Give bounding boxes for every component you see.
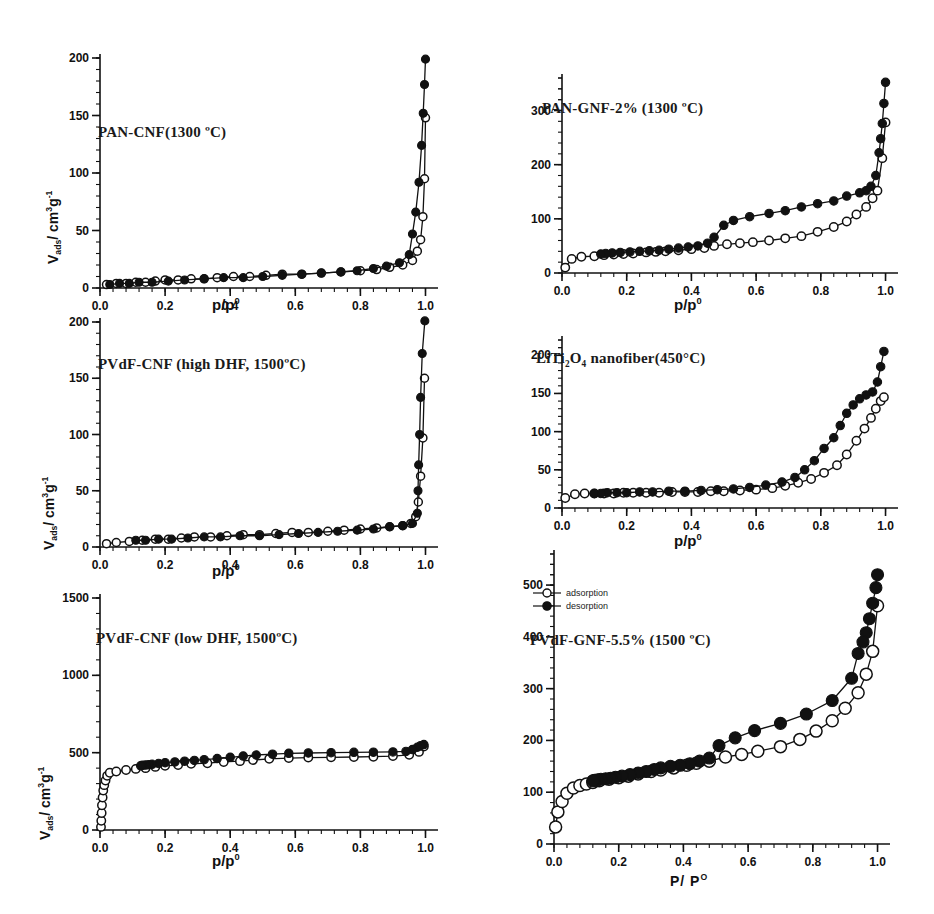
svg-text:0.6: 0.6	[287, 841, 304, 855]
svg-text:150: 150	[69, 371, 89, 385]
y-axis-label: Vads/ cm3g-1	[36, 767, 55, 840]
svg-text:200: 200	[69, 315, 89, 329]
svg-text:0.0: 0.0	[92, 558, 109, 572]
svg-text:100: 100	[531, 212, 551, 226]
svg-text:0.4: 0.4	[675, 855, 692, 869]
svg-text:0.2: 0.2	[618, 284, 635, 298]
legend-marker-open-circle	[532, 587, 562, 599]
svg-text:500: 500	[69, 746, 89, 760]
panel-title: PAN-GNF-2% (1300 ºC)	[542, 100, 703, 117]
svg-text:1.0: 1.0	[417, 558, 434, 572]
plot-area: 0500100015000.00.20.40.60.81.0	[0, 572, 460, 872]
plot-area: 0501001502000.00.20.40.60.81.0	[0, 28, 460, 318]
svg-text:50: 50	[538, 463, 552, 477]
svg-text:0: 0	[536, 837, 543, 851]
panel-pan-cnf-1300: Vads/ cm3g-1 PAN-CNF(1300 ºC) 0501001502…	[0, 28, 460, 318]
svg-text:200: 200	[523, 733, 543, 747]
svg-text:0.2: 0.2	[610, 855, 627, 869]
panel-title: LiTi2O4 nanofiber(450°C)	[536, 350, 705, 369]
svg-text:0.0: 0.0	[546, 855, 563, 869]
svg-text:100: 100	[523, 785, 543, 799]
panel-title: PVdF-CNF (low DHF, 1500ºC)	[96, 630, 298, 647]
svg-text:150: 150	[531, 386, 551, 400]
panel-title: PVdF-CNF (high DHF, 1500ºC)	[98, 356, 306, 373]
svg-text:0.8: 0.8	[352, 558, 369, 572]
svg-text:150: 150	[69, 109, 89, 123]
plot-area: 01002003000.00.20.40.60.81.0	[462, 50, 934, 320]
legend: adsorption desorption	[532, 586, 608, 612]
svg-text:200: 200	[69, 51, 89, 65]
svg-text:100: 100	[531, 425, 551, 439]
panel-title: PVdF-GNF-5.5% (1500 ºC)	[530, 632, 711, 649]
panel-pvdf-cnf-low-dhf: Vads/ cm3g-1 PVdF-CNF (low DHF, 1500ºC) …	[0, 572, 460, 892]
isotherm-figure: Vads/ cm3g-1 PAN-CNF(1300 ºC) 0501001502…	[0, 0, 934, 914]
svg-text:0: 0	[82, 540, 89, 554]
svg-text:0: 0	[544, 501, 551, 515]
svg-text:0.6: 0.6	[287, 558, 304, 572]
legend-label-desorption: desorption	[566, 601, 608, 611]
y-axis-label: Vads/ cm3g-1	[44, 191, 63, 264]
svg-text:1.0: 1.0	[869, 855, 886, 869]
panel-pvdf-cnf-high-dhf: Vads/ cm3g-1 PVdF-CNF (high DHF, 1500ºC)…	[0, 300, 460, 590]
svg-text:0.6: 0.6	[748, 284, 765, 298]
svg-text:0.8: 0.8	[812, 284, 829, 298]
svg-text:300: 300	[523, 682, 543, 696]
svg-text:0.8: 0.8	[352, 841, 369, 855]
svg-text:1500: 1500	[62, 591, 89, 605]
svg-text:200: 200	[531, 158, 551, 172]
x-axis-label: P/ PO	[670, 872, 708, 889]
svg-text:0: 0	[82, 281, 89, 295]
svg-text:50: 50	[76, 224, 90, 238]
legend-item-adsorption: adsorption	[532, 586, 608, 599]
plot-area: 0501001502000.00.20.40.60.81.0	[0, 300, 460, 590]
svg-text:0.6: 0.6	[740, 855, 757, 869]
svg-text:0.2: 0.2	[157, 558, 174, 572]
panel-pan-gnf-2: Vads/ cm3g-1 PAN-GNF-2% (1300 ºC) 010020…	[462, 50, 934, 320]
svg-text:0.8: 0.8	[804, 855, 821, 869]
legend-marker-filled-circle	[532, 600, 562, 612]
panel-title: PAN-CNF(1300 ºC)	[98, 124, 226, 141]
svg-text:0.0: 0.0	[92, 841, 109, 855]
x-axis-label: p/p0	[674, 296, 702, 313]
svg-text:1000: 1000	[62, 668, 89, 682]
panel-pvdf-gnf-55: Vads/ cm3g-1 adsorption desorption PVdF-…	[462, 520, 934, 914]
svg-text:1.0: 1.0	[417, 841, 434, 855]
svg-text:100: 100	[69, 428, 89, 442]
legend-label-adsorption: adsorption	[566, 588, 608, 598]
svg-text:50: 50	[76, 484, 90, 498]
x-axis-label: p/p0	[212, 852, 240, 869]
svg-text:0: 0	[82, 823, 89, 837]
svg-text:0: 0	[544, 266, 551, 280]
svg-text:100: 100	[69, 166, 89, 180]
svg-text:0.0: 0.0	[554, 284, 571, 298]
plot-area: 01002003004005000.00.20.40.60.81.0	[462, 520, 934, 914]
svg-text:1.0: 1.0	[877, 284, 894, 298]
svg-text:0.2: 0.2	[157, 841, 174, 855]
y-axis-label: Vads/ cm3g-1	[40, 477, 59, 550]
legend-item-desorption: desorption	[532, 599, 608, 612]
